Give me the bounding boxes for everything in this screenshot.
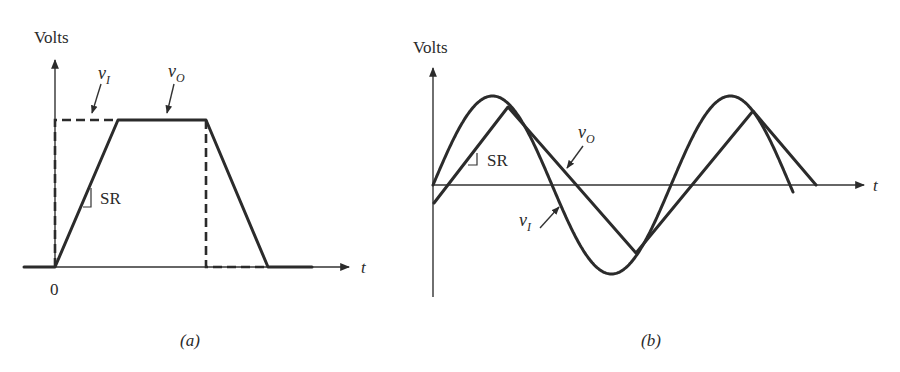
y-axis-label: Volts: [413, 38, 448, 57]
caption-b: (b): [641, 331, 661, 350]
slew-rate-figure: Volts t 0 SR vI vO (a) Volts t: [0, 0, 900, 372]
output-label: vO: [578, 122, 595, 146]
input-pointer-arrow: [540, 207, 559, 228]
input-label: vI: [98, 63, 111, 87]
x-axis-label: t: [873, 176, 879, 195]
panel-a: Volts t 0 SR vI vO (a): [24, 28, 367, 350]
output-label: vO: [168, 61, 185, 85]
origin-label: 0: [50, 280, 59, 299]
panel-b: Volts t SR vO vI (b): [413, 38, 879, 350]
caption-a: (a): [180, 331, 200, 350]
output-pointer-arrow: [567, 146, 583, 168]
output-signal-vo: [434, 107, 816, 253]
input-label: vI: [519, 210, 532, 234]
slope-label: SR: [487, 151, 508, 170]
x-axis-label: t: [361, 258, 367, 277]
output-pointer-arrow: [167, 84, 174, 113]
input-pointer-arrow: [92, 84, 101, 113]
slope-label: SR: [100, 189, 121, 208]
output-signal-vo: [24, 120, 312, 267]
y-axis-label: Volts: [34, 28, 69, 47]
